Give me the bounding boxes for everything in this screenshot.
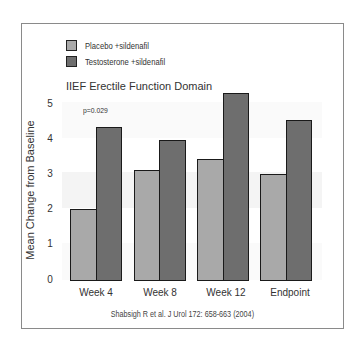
legend-label: Testosterone +sildenafil bbox=[85, 57, 165, 67]
y-tick: 3 bbox=[44, 168, 56, 179]
bar-placebo-week12 bbox=[197, 159, 224, 281]
bar-testosterone-week12 bbox=[223, 93, 249, 281]
y-axis-label: Mean Change from Baseline bbox=[24, 120, 36, 259]
y-tick: 2 bbox=[44, 203, 56, 214]
y-tick: 4 bbox=[44, 133, 56, 144]
bar-placebo-week4 bbox=[70, 209, 97, 281]
y-tick: 1 bbox=[44, 238, 56, 249]
legend-swatch-testosterone bbox=[66, 56, 77, 67]
y-tick: 0 bbox=[44, 274, 56, 285]
bar-placebo-endpoint bbox=[260, 174, 287, 281]
chart-title: IIEF Erectile Function Domain bbox=[66, 80, 212, 92]
legend-swatch-placebo bbox=[66, 40, 77, 51]
bar-testosterone-week4 bbox=[96, 127, 122, 281]
x-tick-label: Endpoint bbox=[260, 287, 320, 298]
source-citation: Shabsigh R et al. J Urol 172: 658-663 (2… bbox=[0, 309, 364, 319]
x-tick-label: Week 12 bbox=[196, 287, 256, 298]
legend-label: Placebo +sildenafil bbox=[85, 41, 149, 51]
p-value-annotation: p=0.029 bbox=[83, 106, 108, 115]
legend-item-placebo: Placebo +sildenafil bbox=[66, 40, 160, 51]
bar-testosterone-endpoint bbox=[286, 120, 312, 281]
bar-testosterone-week8 bbox=[159, 140, 186, 281]
x-tick-label: Week 8 bbox=[130, 287, 190, 298]
bar-placebo-week8 bbox=[134, 170, 160, 281]
y-tick: 5 bbox=[44, 98, 56, 109]
legend-item-testosterone: Testosterone +sildenafil bbox=[66, 56, 179, 67]
x-tick-label: Week 4 bbox=[66, 287, 126, 298]
source-citation-text: Shabsigh R et al. J Urol 172: 658-663 (2… bbox=[110, 309, 253, 319]
